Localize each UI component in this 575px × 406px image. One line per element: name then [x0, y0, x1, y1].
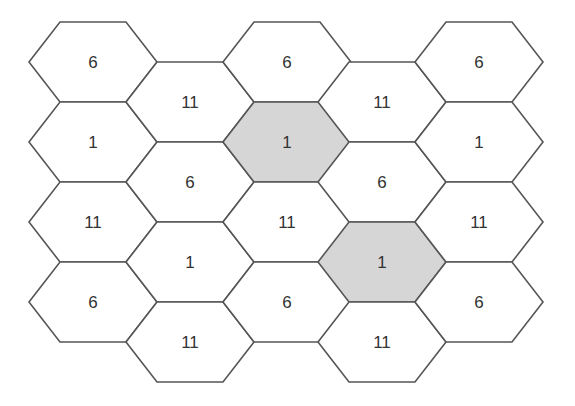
channel-label: 6 [88, 53, 97, 72]
channel-label: 6 [474, 293, 483, 312]
channel-label: 11 [84, 213, 102, 232]
channel-label: 1 [377, 253, 386, 272]
channel-label: 11 [373, 333, 391, 352]
channel-label: 11 [470, 213, 488, 232]
channel-label: 6 [474, 53, 483, 72]
channel-label: 6 [377, 173, 386, 192]
channel-label: 1 [282, 133, 291, 152]
channel-label: 6 [88, 293, 97, 312]
channel-label: 1 [474, 133, 483, 152]
channel-label: 1 [185, 253, 194, 272]
channel-label: 6 [185, 173, 194, 192]
hex-grid-diagram: 611161161116111611611161116 [0, 0, 575, 406]
channel-label: 6 [282, 293, 291, 312]
channel-label: 11 [278, 213, 296, 232]
channel-label: 1 [88, 133, 97, 152]
channel-label: 11 [181, 93, 199, 112]
channel-label: 6 [282, 53, 291, 72]
channel-label: 11 [181, 333, 199, 352]
channel-label: 11 [373, 93, 391, 112]
